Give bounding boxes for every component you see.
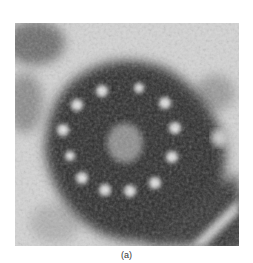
micrograph-image (15, 23, 239, 246)
figure-caption: (a) (0, 250, 253, 260)
caption-text: (a) (121, 250, 132, 260)
